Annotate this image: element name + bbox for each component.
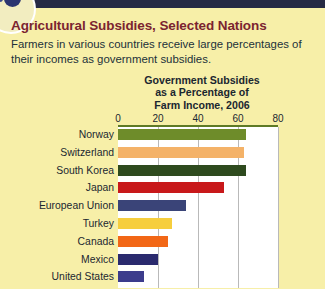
bar-label-united-states: United States	[52, 271, 114, 282]
logo-blob-primary	[4, 0, 21, 7]
bar-row: Japan	[0, 180, 325, 198]
page-title: Agricultural Subsidies, Selected Nations	[11, 18, 267, 33]
bar-rows: NorwaySwitzerlandSouth KoreaJapanEuropea…	[0, 127, 325, 288]
bar-united-states	[118, 271, 144, 282]
chart-title-line-2: as a Percentage of	[118, 86, 286, 98]
intro-text: Farmers in various countries receive lar…	[11, 37, 311, 67]
chart-title-line-1: Government Subsidies	[118, 74, 286, 86]
bar-row: European Union	[0, 198, 325, 216]
bar-chart: Government Subsidies as a Percentage of …	[0, 74, 325, 289]
bar-mexico	[118, 254, 158, 265]
bar-label-south-korea: South Korea	[56, 165, 114, 176]
bar-row: South Korea	[0, 163, 325, 181]
bar-row: Turkey	[0, 216, 325, 234]
bar-row: Mexico	[0, 252, 325, 270]
bar-label-mexico: Mexico	[81, 254, 114, 265]
bar-south-korea	[118, 165, 246, 176]
logo-blob-secondary	[0, 0, 3, 2]
bar-label-norway: Norway	[79, 129, 114, 140]
bar-row: Norway	[0, 127, 325, 145]
bar-norway	[118, 129, 246, 140]
bar-label-european-union: European Union	[39, 200, 114, 211]
x-tick-label-80: 80	[272, 113, 283, 124]
x-tick-label-20: 20	[152, 113, 163, 124]
bar-turkey	[118, 218, 172, 229]
x-tick-label-40: 40	[192, 113, 203, 124]
bar-row: Canada	[0, 234, 325, 252]
bar-european-union	[118, 200, 186, 211]
bar-label-turkey: Turkey	[83, 218, 114, 229]
x-tick-label-0: 0	[115, 113, 121, 124]
chart-title-line-3: Farm Income, 2006	[118, 99, 286, 111]
bar-label-switzerland: Switzerland	[60, 147, 114, 158]
chart-title: Government Subsidies as a Percentage of …	[118, 74, 286, 111]
bar-row: Switzerland	[0, 145, 325, 163]
bar-japan	[118, 182, 224, 193]
bar-row: United States	[0, 269, 325, 287]
x-tick-label-60: 60	[232, 113, 243, 124]
bar-label-canada: Canada	[78, 236, 114, 247]
bar-switzerland	[118, 147, 244, 158]
top-decorative-band	[0, 0, 325, 8]
bar-canada	[118, 236, 168, 247]
bar-label-japan: Japan	[86, 182, 114, 193]
